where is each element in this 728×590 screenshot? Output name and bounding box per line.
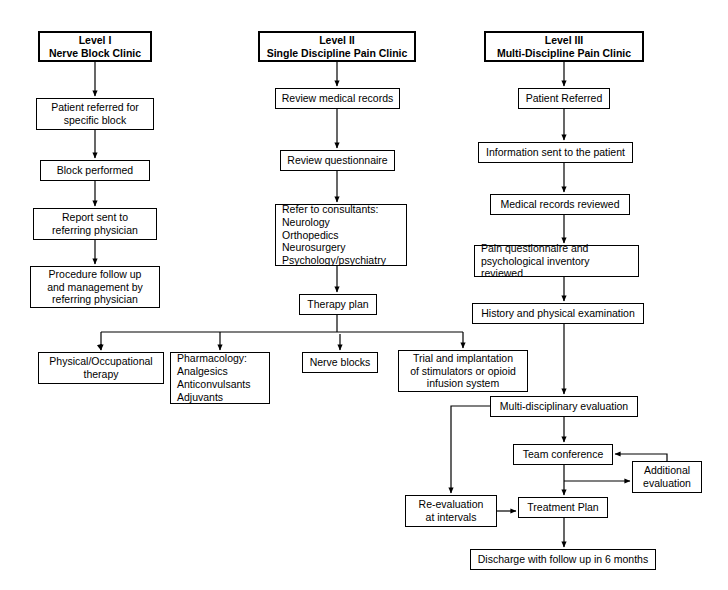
node-patient-referred-specific-block: Patient referred for specific block	[36, 98, 154, 130]
node-additional-evaluation: Additional evaluation	[632, 461, 702, 493]
node-text: Review medical records	[280, 92, 395, 105]
node-text: Nerve blocks	[307, 356, 373, 369]
node-level1-header: Level I Nerve Block Clinic	[38, 31, 152, 62]
node-therapy-plan: Therapy plan	[299, 294, 377, 315]
node-text: Level II Single Discipline Pain Clinic	[264, 34, 410, 60]
node-text: Report sent to referring physician	[38, 211, 152, 237]
node-block-performed: Block performed	[40, 160, 150, 181]
node-text: Treatment Plan	[523, 501, 603, 514]
node-text: Procedure follow up and management by re…	[35, 268, 155, 306]
node-multi-disciplinary-evaluation: Multi-disciplinary evaluation	[490, 396, 638, 417]
node-pain-questionnaire-reviewed: Pain questionnaire and psychological inv…	[474, 245, 639, 277]
node-information-sent-to-patient: Information sent to the patient	[478, 142, 633, 163]
node-text: Patient Referred	[523, 92, 605, 105]
node-treatment-plan: Treatment Plan	[518, 497, 608, 518]
node-text: Refer to consultants: Neurology Orthoped…	[282, 203, 402, 267]
node-text: Therapy plan	[304, 298, 372, 311]
node-team-conference: Team conference	[513, 444, 613, 465]
node-text: Multi-disciplinary evaluation	[495, 400, 633, 413]
node-trial-and-implantation: Trial and implantation of stimulators or…	[398, 350, 528, 392]
node-level2-header: Level II Single Discipline Pain Clinic	[258, 31, 416, 62]
node-level3-header: Level III Multi-Discipline Pain Clinic	[484, 31, 644, 62]
node-text: Information sent to the patient	[483, 146, 628, 159]
node-review-questionnaire: Review questionnaire	[280, 150, 395, 171]
node-review-medical-records: Review medical records	[275, 88, 400, 109]
node-text: Level I Nerve Block Clinic	[44, 34, 146, 60]
node-discharge-follow-up: Discharge with follow up in 6 months	[470, 549, 656, 570]
node-text: Block performed	[45, 164, 145, 177]
flowchart-canvas: Level I Nerve Block Clinic Patient refer…	[0, 0, 728, 590]
node-patient-referred: Patient Referred	[518, 88, 610, 109]
node-report-sent-referring-physician: Report sent to referring physician	[33, 208, 157, 240]
node-text: Re-evaluation at intervals	[410, 498, 492, 524]
node-text: Team conference	[518, 448, 608, 461]
node-nerve-blocks: Nerve blocks	[302, 352, 378, 373]
node-text: Level III Multi-Discipline Pain Clinic	[490, 34, 638, 60]
edge-l3-addl-to-team	[615, 454, 667, 461]
node-history-physical-examination: History and physical examination	[472, 303, 644, 324]
node-text: Patient referred for specific block	[41, 101, 149, 127]
node-physical-occupational-therapy: Physical/Occupational therapy	[38, 352, 164, 384]
node-text: Pharmacology: Analgesics Anticonvulsants…	[177, 352, 265, 403]
node-procedure-follow-up: Procedure follow up and management by re…	[30, 266, 160, 308]
node-medical-records-reviewed: Medical records reviewed	[490, 194, 630, 215]
node-text: History and physical examination	[477, 307, 639, 320]
node-re-evaluation-at-intervals: Re-evaluation at intervals	[405, 495, 497, 527]
node-text: Pain questionnaire and psychological inv…	[481, 242, 634, 280]
node-refer-to-consultants: Refer to consultants: Neurology Orthoped…	[275, 204, 407, 266]
node-text: Trial and implantation of stimulators or…	[403, 352, 523, 390]
node-text: Medical records reviewed	[495, 198, 625, 211]
node-text: Review questionnaire	[285, 154, 390, 167]
node-text: Additional evaluation	[637, 464, 697, 490]
edge-l3-multi-to-reeval	[451, 406, 490, 493]
node-pharmacology: Pharmacology: Analgesics Anticonvulsants…	[170, 352, 270, 404]
node-text: Discharge with follow up in 6 months	[475, 553, 651, 566]
node-text: Physical/Occupational therapy	[43, 355, 159, 381]
